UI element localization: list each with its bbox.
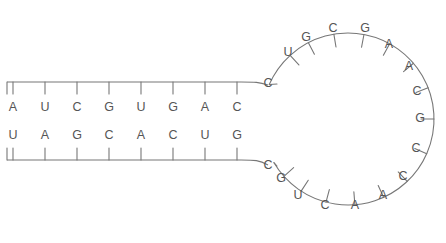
loop-tick [362,34,364,47]
top-backbone [7,82,268,85]
stem-top-base: U [40,100,49,114]
loop-base: G [360,21,370,35]
stem-top-base: A [201,100,210,114]
stem-bottom-base: G [72,128,82,142]
stem-bottom-base: U [8,128,17,142]
loop-base: A [351,198,360,212]
loop-base: C [263,158,272,172]
loop-base: G [276,171,286,185]
stem-bottom-base: C [104,128,113,142]
stem-bottom-base: U [200,128,209,142]
loop-base: A [379,188,388,202]
stem-top-base: A [9,100,18,114]
loop-base: G [415,111,425,125]
loop-base: U [283,45,292,59]
stem-bottom-base: A [137,128,146,142]
stem-top-base: U [136,100,145,114]
stem-bottom-base: A [41,128,50,142]
stem-top-base: C [72,100,81,114]
stem-top-base: G [168,100,178,114]
rna-structure-diagram: AUCGUGACUAGCACUGCUGCGAACGCCAACUGC [0,0,446,243]
stem-top-base: G [104,100,114,114]
loop-tick [334,34,336,47]
stem-bottom-base: G [232,128,242,142]
loop-tick [308,43,314,55]
stem-bottom-base: C [168,128,177,142]
loop-base: A [405,59,414,73]
loop-base: G [301,30,311,44]
bottom-backbone [7,160,268,165]
loop-base: C [328,21,337,35]
stem-top-base: C [232,100,241,114]
loop-base: C [412,84,421,98]
loop-base: C [411,141,420,155]
loop-base: U [293,188,302,202]
diagram-canvas: AUCGUGACUAGCACUGCUGCGAACGCCAACUGC [0,0,446,243]
loop-base: C [263,76,272,90]
loop-base: A [385,37,394,51]
loop-base: C [320,198,329,212]
loop-base: C [398,169,407,183]
